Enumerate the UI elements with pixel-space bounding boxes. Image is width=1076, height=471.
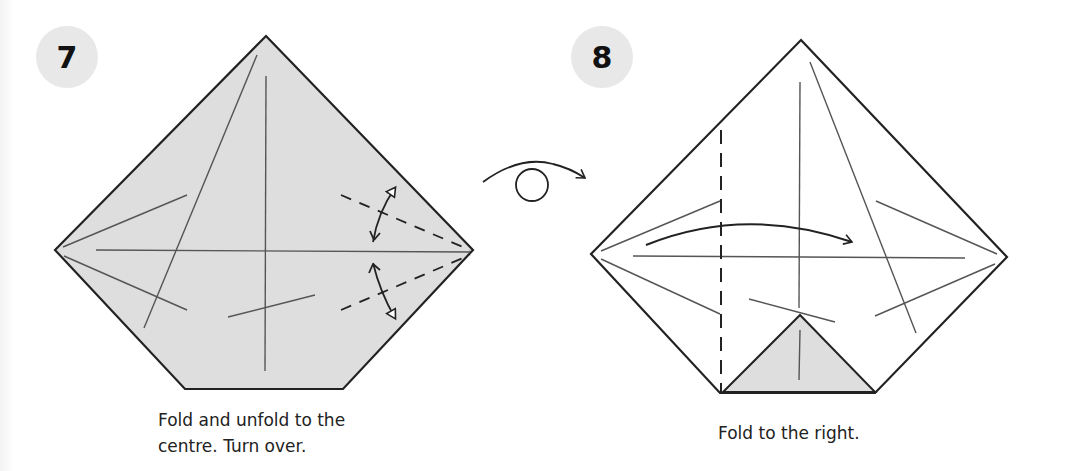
step-7-caption: Fold and unfold to the centre. Turn over… xyxy=(158,407,345,459)
turn-over-arrow-icon xyxy=(483,162,585,201)
step-8-diagram xyxy=(591,40,1007,393)
step-8-caption-line-1: Fold to the right. xyxy=(718,420,860,446)
step-8-caption: Fold to the right. xyxy=(718,420,860,446)
step-7-diagram xyxy=(55,36,473,389)
step-7-caption-line-1: Fold and unfold to the xyxy=(158,407,345,433)
origami-diagrams xyxy=(0,0,1076,471)
step-7-caption-line-2: centre. Turn over. xyxy=(158,433,345,459)
step-7-paper xyxy=(55,36,473,389)
